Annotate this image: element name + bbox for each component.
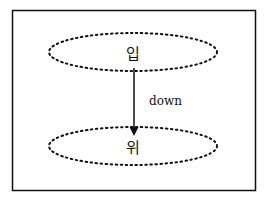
top-node-label: 입 — [126, 45, 140, 63]
edge-label: down — [149, 94, 182, 108]
diagram-canvas: 입 위 down — [0, 0, 265, 201]
bottom-node-label: 위 — [126, 139, 140, 157]
